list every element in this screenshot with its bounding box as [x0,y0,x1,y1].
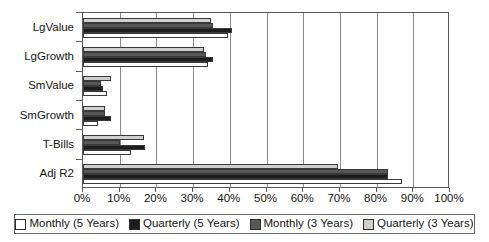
y-axis-tick [76,71,82,72]
y-axis-tick [76,41,82,42]
y-axis-tick [76,12,82,13]
legend-item[interactable]: Quarterly (5 Years) [124,218,245,230]
legend-swatch-icon [15,219,26,230]
x-axis-tick-label: 70% [327,192,350,205]
y-axis-tick-label: LgGrowth [24,50,74,62]
legend-item[interactable]: Monthly (5 Years) [10,218,124,230]
y-axis-tick [76,129,82,130]
y-axis-tick-label: T-Bills [43,138,74,150]
y-axis-tick [76,100,82,101]
bar-group [83,130,448,159]
bar [83,179,402,184]
legend-item[interactable]: Quarterly (3 Years) [358,218,479,230]
legend-label: Monthly (5 Years) [29,218,119,230]
x-axis-tick-label: 10% [107,192,130,205]
bar-group [83,13,448,42]
x-axis-tick-label: 50% [254,192,277,205]
y-axis-tick-label: Adj R2 [39,167,74,179]
legend-label: Monthly (3 Years) [264,218,354,230]
x-axis-tick-label: 30% [181,192,204,205]
legend-swatch-icon [363,219,374,230]
legend-label: Quarterly (5 Years) [143,218,240,230]
legend-swatch-icon [129,219,140,230]
x-axis-tick-label: 40% [217,192,240,205]
bar [83,62,208,67]
bar [83,91,107,96]
x-axis-tick-label: 0% [74,192,91,205]
x-axis-tick-label: 90% [401,192,424,205]
bar-group [83,101,448,130]
bar [83,150,131,155]
x-axis-tick-label: 100% [434,192,463,205]
legend-label: Quarterly (3 Years) [377,218,474,230]
y-axis-tick [76,159,82,160]
chart-legend: Monthly (5 Years)Quarterly (5 Years)Mont… [14,214,475,234]
bar [83,33,228,38]
bar-group [83,42,448,71]
y-axis-tick-label: SmValue [28,79,74,91]
bar-group [83,160,448,189]
y-axis-tick-label: LgValue [33,21,74,33]
plot-area [82,12,449,188]
legend-swatch-icon [250,219,261,230]
bar-chart: LgValueLgGrowthSmValueSmGrowthT-BillsAdj… [0,0,489,242]
bar-group [83,72,448,101]
y-axis-labels: LgValueLgGrowthSmValueSmGrowthT-BillsAdj… [0,12,78,188]
y-axis-tick-label: SmGrowth [20,109,74,121]
x-axis-tick-label: 20% [144,192,167,205]
x-axis-tick-label: 60% [291,192,314,205]
x-axis-tick-label: 80% [364,192,387,205]
legend-item[interactable]: Monthly (3 Years) [245,218,359,230]
bar [83,121,98,126]
